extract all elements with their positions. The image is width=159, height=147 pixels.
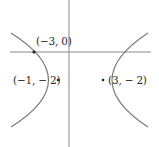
point-neg3-0 (32, 50, 35, 53)
label-neg3-0: (−3, 0) (36, 36, 72, 47)
label-3-neg2: (3, − 2) (108, 75, 147, 86)
point-3-neg2 (102, 79, 105, 82)
label-neg1-neg2: (−1, − 2) (13, 75, 60, 86)
